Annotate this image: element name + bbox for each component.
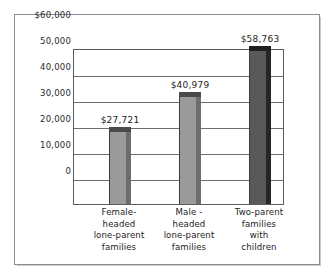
category-label-line: Two-parent	[224, 207, 294, 219]
category-label-line: Male -	[154, 207, 224, 219]
bar-value-label: $40,979	[166, 81, 214, 90]
bar-value-label: $58,763	[236, 35, 284, 44]
category-label-line: lone-parent	[84, 230, 154, 242]
category-label-line: Female-	[84, 207, 154, 219]
bar-front-face	[109, 132, 126, 204]
y-axis-tick-labels: $60,00050,00040,00030,00020,00010,0000	[15, 15, 71, 264]
x-axis-category-label: Two-parentfamilieswithchildren	[224, 207, 294, 253]
bar-side-face	[196, 97, 201, 204]
bar-side-face	[266, 51, 271, 204]
x-axis-category-label: Male -headedlone-parentfamilies	[154, 207, 224, 253]
bar[interactable]	[109, 132, 126, 204]
bar-value-label: $27,721	[96, 116, 144, 125]
plot-area: $27,721$40,979$58,763	[73, 49, 284, 205]
category-label-line: headed	[84, 219, 154, 231]
bar-front-face	[249, 51, 266, 204]
y-axis-tick-label: $60,000	[34, 11, 71, 20]
y-axis-tick-label: 10,000	[40, 141, 71, 150]
category-label-line: with	[224, 230, 294, 242]
category-label-line: lone-parent	[154, 230, 224, 242]
x-axis-category-labels: Female-headedlone-parentfamiliesMale -he…	[73, 207, 284, 265]
y-axis-tick-label: 50,000	[40, 37, 71, 46]
bar[interactable]	[179, 97, 196, 204]
category-label-line: families	[154, 242, 224, 254]
chart-frame: $60,00050,00040,00030,00020,00010,0000 $…	[14, 14, 320, 265]
y-axis-tick-label: 40,000	[40, 63, 71, 72]
category-label-line: families	[84, 242, 154, 254]
category-label-line: children	[224, 242, 294, 254]
y-axis-tick-label: 0	[65, 167, 71, 176]
x-axis-category-label: Female-headedlone-parentfamilies	[84, 207, 154, 253]
bar-front-face	[179, 97, 196, 204]
bar[interactable]	[249, 51, 266, 204]
category-label-line: headed	[154, 219, 224, 231]
bar-side-face	[126, 132, 131, 204]
category-label-line: families	[224, 219, 294, 231]
y-axis-tick-label: 30,000	[40, 89, 71, 98]
y-axis-tick-label: 20,000	[40, 115, 71, 124]
